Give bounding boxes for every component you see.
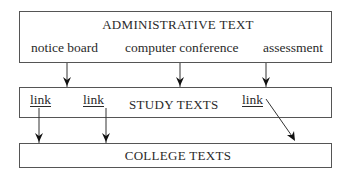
admin-to-study-arrows: [63, 63, 270, 87]
study-to-college-arrows: [35, 99, 295, 143]
arrow-link-3-icon: [266, 99, 294, 139]
arrows-layer: [0, 0, 348, 177]
